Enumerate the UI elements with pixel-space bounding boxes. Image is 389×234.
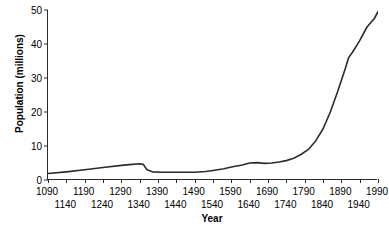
- x-tick-label: 1890: [329, 186, 351, 197]
- x-tick-label: 1540: [201, 199, 223, 210]
- y-axis-title: Population (millions): [14, 9, 25, 159]
- x-tick-mark: [250, 179, 251, 183]
- x-tick-label: 1240: [91, 199, 113, 210]
- x-tick-label: 1790: [293, 186, 315, 197]
- x-tick-label: 1140: [55, 199, 77, 210]
- x-tick-label: 1290: [109, 186, 131, 197]
- x-axis-title: Year: [47, 213, 377, 224]
- y-tick-mark: [44, 10, 48, 11]
- x-tick-label: 1440: [164, 199, 186, 210]
- x-tick-mark: [286, 179, 287, 183]
- x-tick-mark: [305, 179, 306, 183]
- x-tick-mark: [323, 179, 324, 183]
- y-tick-mark: [44, 146, 48, 147]
- x-tick-label: 1390: [146, 186, 168, 197]
- x-tick-mark: [66, 179, 67, 183]
- x-tick-label: 1740: [274, 199, 296, 210]
- x-tick-mark: [213, 179, 214, 183]
- y-tick-label: 0: [8, 175, 48, 186]
- x-tick-mark: [360, 179, 361, 183]
- y-tick-label: 30: [8, 73, 48, 84]
- y-tick-mark: [44, 44, 48, 45]
- y-tick-label: 10: [8, 141, 48, 152]
- x-tick-label: 1990: [366, 186, 388, 197]
- x-tick-mark: [231, 179, 232, 183]
- y-tick-label: 50: [8, 5, 48, 16]
- x-tick-mark: [341, 179, 342, 183]
- x-tick-mark: [176, 179, 177, 183]
- x-tick-label: 1690: [256, 186, 278, 197]
- x-tick-label: 1940: [348, 199, 370, 210]
- x-tick-label: 1090: [36, 186, 58, 197]
- y-tick-label: 40: [8, 39, 48, 50]
- x-tick-label: 1190: [73, 186, 95, 197]
- x-tick-label: 1340: [128, 199, 150, 210]
- y-tick-label: 20: [8, 107, 48, 118]
- y-tick-mark: [44, 112, 48, 113]
- x-tick-mark: [195, 179, 196, 183]
- x-tick-label: 1590: [219, 186, 241, 197]
- x-tick-mark: [268, 179, 269, 183]
- x-tick-mark: [85, 179, 86, 183]
- plot-area: 01020304050: [47, 10, 377, 180]
- x-tick-mark: [158, 179, 159, 183]
- series-layer: [48, 10, 378, 180]
- x-tick-mark: [378, 179, 379, 183]
- population-line: [48, 12, 378, 174]
- x-tick-mark: [140, 179, 141, 183]
- x-tick-mark: [48, 179, 49, 183]
- x-tick-label: 1840: [311, 199, 333, 210]
- x-tick-mark: [121, 179, 122, 183]
- y-tick-mark: [44, 78, 48, 79]
- population-line-chart: Population (millions) 01020304050 Year 1…: [0, 0, 389, 234]
- x-tick-mark: [103, 179, 104, 183]
- x-tick-label: 1490: [183, 186, 205, 197]
- x-tick-label: 1640: [238, 199, 260, 210]
